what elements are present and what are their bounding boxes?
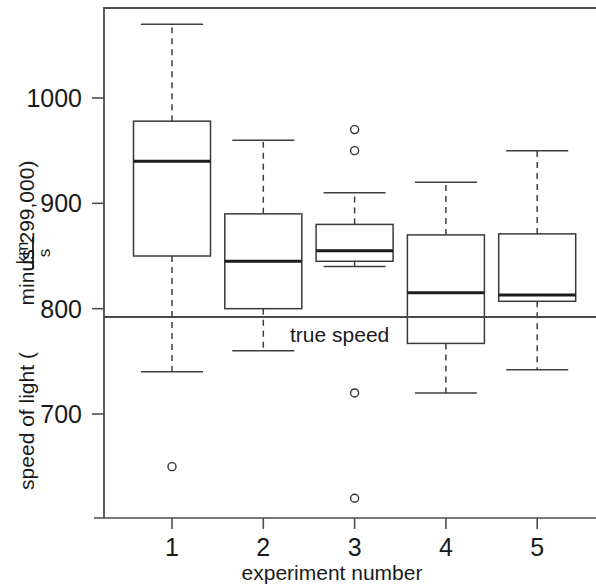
y-tick-label: 1000 — [26, 84, 82, 112]
annotations: true speed — [104, 317, 596, 346]
outlier-point — [351, 147, 359, 155]
outlier-point — [168, 463, 176, 471]
outlier-point — [351, 389, 359, 397]
x-tick-label: 1 — [165, 533, 179, 561]
box-group-3 — [316, 126, 393, 503]
box-group-5 — [499, 151, 576, 370]
boxplot-canvas: 1000900800700 12345 true speed experimen… — [0, 0, 596, 584]
outlier-point — [351, 126, 359, 134]
x-axis-title: experiment number — [242, 561, 423, 584]
y-axis-title-suffix: minus 299,000) — [15, 161, 38, 306]
x-tick-label: 5 — [530, 533, 544, 561]
outlier-point — [351, 494, 359, 502]
box-group-4 — [407, 182, 484, 393]
x-tick-label: 2 — [256, 533, 270, 561]
y-tick-label: 700 — [40, 400, 82, 428]
box-series — [134, 24, 576, 502]
box-rect — [134, 121, 211, 256]
x-tick-label: 4 — [439, 533, 453, 561]
x-axis: 12345 — [165, 518, 544, 561]
y-tick-label: 900 — [40, 189, 82, 217]
box-rect — [499, 234, 576, 301]
box-rect — [407, 235, 484, 343]
box-group-2 — [225, 140, 302, 351]
box-group-1 — [134, 24, 211, 470]
boxplot-figure: 1000900800700 12345 true speed experimen… — [0, 0, 596, 584]
box-rect — [316, 224, 393, 261]
x-tick-label: 3 — [348, 533, 362, 561]
y-axis-title-prefix: speed of light ( — [15, 352, 38, 490]
true-speed-label: true speed — [290, 323, 389, 346]
y-tick-label: 800 — [40, 295, 82, 323]
